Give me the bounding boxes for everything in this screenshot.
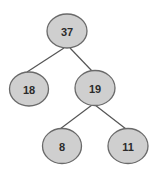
edge-37-18 — [27, 48, 64, 72]
node-label: 18 — [23, 84, 35, 96]
tree-node-11: 11 — [108, 129, 148, 164]
tree-nodes: 37 18 19 8 11 — [10, 14, 149, 164]
edge-37-19 — [70, 48, 92, 71]
tree-node-37: 37 — [47, 14, 87, 48]
node-label: 11 — [122, 141, 134, 153]
edge-19-11 — [95, 105, 126, 129]
tree-node-8: 8 — [43, 129, 82, 164]
edge-19-8 — [60, 105, 92, 129]
node-label: 19 — [89, 83, 101, 95]
tree-node-18: 18 — [10, 72, 49, 106]
node-label: 8 — [59, 141, 65, 153]
node-label: 37 — [61, 26, 73, 38]
tree-diagram: 37 18 19 8 11 — [0, 0, 155, 174]
tree-node-19: 19 — [75, 71, 115, 106]
